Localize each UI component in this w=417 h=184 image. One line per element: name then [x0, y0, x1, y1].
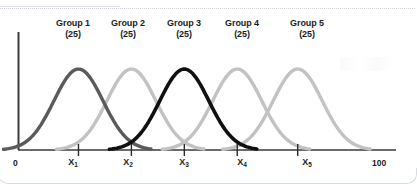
- axis-label-zero: 0: [13, 158, 18, 168]
- curve-group-4: [162, 69, 309, 149]
- curve-label-group-5-name: Group 5: [290, 18, 324, 28]
- axis-label-x5: X5: [295, 157, 319, 167]
- curve-label-group-4: Group 4 (25): [205, 18, 279, 40]
- curve-label-group-5-n: (25): [270, 29, 344, 40]
- curve-group-2: [56, 69, 203, 149]
- axis-label-x1: X1: [61, 157, 85, 167]
- axis-label-x3: X3: [172, 157, 196, 167]
- curve-label-group-5: Group 5 (25): [270, 18, 344, 40]
- distribution-plot: Group 1 (25) Group 2 (25) Group 3 (25) G…: [0, 12, 415, 164]
- curve-label-group-4-name: Group 4: [225, 18, 259, 28]
- curve-label-group-1-name: Group 1: [56, 18, 90, 28]
- axis-label-x4: X4: [230, 157, 254, 167]
- axis-label-hundred: 100: [372, 158, 386, 168]
- page-top-dotted-rule: [0, 8, 415, 10]
- curve-label-group-2-name: Group 2: [111, 18, 145, 28]
- curve-group-5: [223, 69, 370, 149]
- curve-label-group-4-n: (25): [205, 29, 279, 40]
- curve-label-group-3-name: Group 3: [167, 18, 201, 28]
- curve-group-1: [4, 69, 151, 149]
- axis-label-x2: X2: [116, 157, 140, 167]
- page-top-solid-rule: [0, 6, 120, 7]
- curve-group: [4, 69, 371, 149]
- curve-group-3: [109, 69, 256, 149]
- page-bottom-frame: [0, 168, 417, 184]
